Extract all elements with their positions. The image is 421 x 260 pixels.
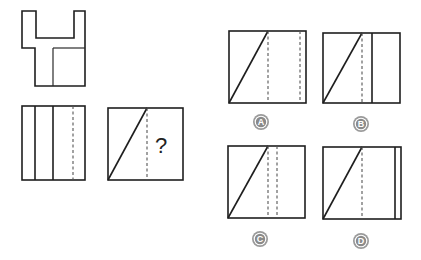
option-d[interactable]: D	[323, 147, 401, 249]
option-d-badge[interactable]: D	[353, 233, 369, 249]
option-b-letter: B	[358, 119, 365, 129]
option-a-letter: A	[258, 117, 265, 127]
option-b[interactable]: B	[323, 33, 400, 132]
option-c-badge[interactable]: C	[252, 231, 268, 247]
question-mark: ?	[155, 133, 167, 158]
side-view-figure: ?	[108, 108, 183, 180]
top-view-figure	[22, 11, 85, 86]
option-c-letter: C	[257, 234, 264, 244]
option-d-letter: D	[358, 236, 365, 246]
front-view-figure	[22, 106, 85, 180]
option-a-badge[interactable]: A	[253, 114, 269, 130]
option-b-badge[interactable]: B	[353, 116, 369, 132]
option-c[interactable]: C	[228, 146, 305, 247]
option-a[interactable]: A	[229, 31, 306, 130]
puzzle-canvas: ? A B	[0, 0, 421, 260]
